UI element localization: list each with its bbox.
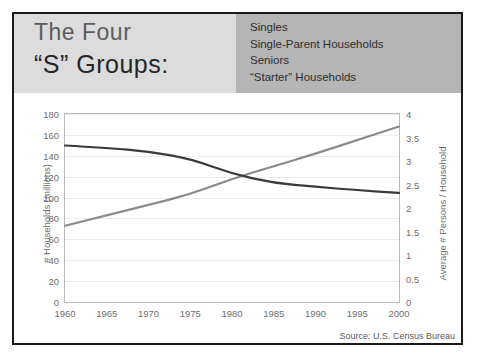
y-axis-left-tick-label: 160	[18, 129, 64, 140]
y-axis-left-tick-label: 40	[18, 255, 64, 266]
y-axis-right-tick-label: 3.5	[400, 132, 428, 143]
x-axis-tick-label: 1960	[54, 308, 75, 319]
legend-item-starter-households: “Starter” Households	[250, 69, 384, 86]
y-axis-left-tick-label: 20	[18, 276, 64, 287]
source-note: Source: U.S. Census Bureau	[339, 331, 455, 341]
x-axis-ticks: 196019651970197519801985199019952000	[14, 308, 461, 322]
y-axis-right-title: Average # Persons / Household	[437, 124, 448, 304]
legend-list: Singles Single-Parent Households Seniors…	[250, 19, 384, 85]
series-line	[65, 127, 399, 226]
y-axis-right-tick-label: 3	[400, 156, 428, 167]
y-axis-right-tick-label: 2.5	[400, 179, 428, 190]
x-axis-tick-label: 1990	[305, 308, 326, 319]
legend-band: Singles Single-Parent Households Seniors…	[236, 14, 461, 93]
y-axis-left-tick-label: 60	[18, 234, 64, 245]
x-axis-tick-label: 1970	[138, 308, 159, 319]
y-axis-left-tick-label: 0	[18, 297, 64, 308]
plot-frame	[64, 113, 400, 303]
chart-area: # Households (millions) Average # Person…	[14, 93, 461, 343]
legend-item-singles: Singles	[250, 19, 384, 36]
y-axis-right-tick-label: 0.5	[400, 273, 428, 284]
y-axis-right-tick-label: 1	[400, 250, 428, 261]
legend-item-single-parent-households: Single-Parent Households	[250, 36, 384, 53]
series-line	[65, 145, 399, 192]
series-layer	[65, 114, 399, 302]
y-axis-left-tick-label: 100	[18, 192, 64, 203]
x-axis-tick-label: 1995	[347, 308, 368, 319]
page-title-line2: “S” Groups:	[34, 50, 169, 79]
y-axis-left-tick-label: 180	[18, 109, 64, 120]
slide-header: The Four “S” Groups: Singles Single-Pare…	[14, 14, 461, 93]
y-axis-right-tick-label: 1.5	[400, 226, 428, 237]
slide-frame: The Four “S” Groups: Singles Single-Pare…	[12, 12, 463, 345]
x-axis-tick-label: 2000	[388, 308, 409, 319]
y-axis-left-tick-label: 80	[18, 213, 64, 224]
y-axis-right-ticks: 00.511.522.533.54	[400, 113, 430, 303]
y-axis-left-tick-label: 120	[18, 171, 64, 182]
y-axis-left-tick-label: 140	[18, 150, 64, 161]
x-axis-tick-label: 1980	[221, 308, 242, 319]
y-axis-left-ticks: 020406080100120140160180	[18, 113, 64, 303]
y-axis-right-tick-label: 2	[400, 203, 428, 214]
title-band: The Four “S” Groups:	[14, 14, 236, 93]
y-axis-right-tick-label: 0	[400, 297, 428, 308]
x-axis-tick-label: 1965	[96, 308, 117, 319]
y-axis-right-tick-label: 4	[400, 109, 428, 120]
legend-item-seniors: Seniors	[250, 52, 384, 69]
x-axis-tick-label: 1985	[263, 308, 284, 319]
page-title-line1: The Four	[34, 19, 131, 46]
x-axis-tick-label: 1975	[180, 308, 201, 319]
